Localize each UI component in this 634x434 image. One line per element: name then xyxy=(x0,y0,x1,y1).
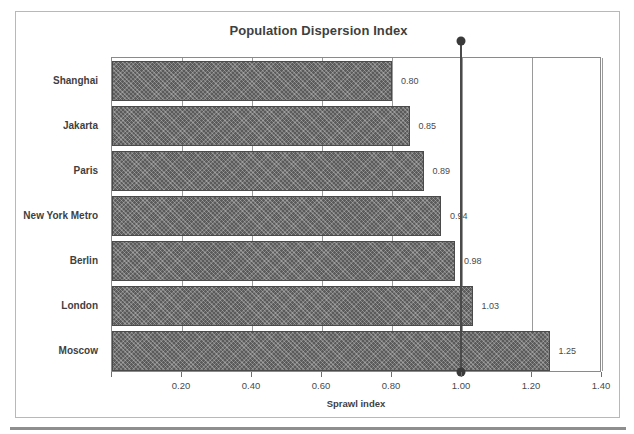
x-axis-tick xyxy=(601,372,602,377)
bar-value-label: 0.94 xyxy=(450,211,468,221)
category-label: Jakarta xyxy=(63,119,98,130)
bar-row: 0.80 xyxy=(112,61,600,101)
bar[interactable] xyxy=(112,61,392,101)
category-label: Moscow xyxy=(59,344,98,355)
x-axis-tick-label: 0.80 xyxy=(382,380,401,391)
footer-divider xyxy=(10,427,626,430)
bar-value-label: 0.80 xyxy=(401,76,419,86)
x-axis-tick xyxy=(461,372,462,377)
x-axis-tick xyxy=(321,372,322,377)
x-axis-tick-label: 1.00 xyxy=(452,380,471,391)
chart-title: Population Dispersion Index xyxy=(16,23,621,38)
chart-frame: Population Dispersion Index ShanghaiJaka… xyxy=(15,11,620,418)
bar[interactable] xyxy=(112,331,550,371)
reference-marker-top-icon xyxy=(457,37,466,46)
x-axis-tick xyxy=(181,372,182,377)
bar-row: 0.94 xyxy=(112,196,600,236)
x-axis-tick-label: 0.60 xyxy=(312,380,331,391)
reference-line xyxy=(460,40,462,372)
bar-row: 0.85 xyxy=(112,106,600,146)
x-axis-tick xyxy=(111,372,112,377)
category-label: Berlin xyxy=(70,254,98,265)
bar-value-label: 0.98 xyxy=(464,256,482,266)
x-axis-tick-label: 0.40 xyxy=(242,380,261,391)
x-axis-tick-label: 1.40 xyxy=(592,380,611,391)
x-axis-tick-label: 0.20 xyxy=(172,380,191,391)
bar-row: 0.89 xyxy=(112,151,600,191)
bar-row: 0.98 xyxy=(112,241,600,281)
category-label: Shanghai xyxy=(53,74,98,85)
bar[interactable] xyxy=(112,151,424,191)
x-axis-tick-label: 1.20 xyxy=(522,380,541,391)
bar[interactable] xyxy=(112,106,410,146)
x-axis-tick xyxy=(251,372,252,377)
bar-value-label: 0.89 xyxy=(433,166,451,176)
bar[interactable] xyxy=(112,196,441,236)
bar[interactable] xyxy=(112,286,473,326)
bar-series: 0.800.850.890.940.981.031.25 xyxy=(112,58,600,371)
bar-value-label: 0.85 xyxy=(419,121,437,131)
x-axis-tick xyxy=(531,372,532,377)
category-label: Paris xyxy=(74,164,98,175)
category-axis-labels: ShanghaiJakartaParisNew York MetroBerlin… xyxy=(16,57,106,372)
category-label: London xyxy=(61,299,98,310)
bar-value-label: 1.03 xyxy=(482,301,500,311)
bar-row: 1.25 xyxy=(112,331,600,371)
x-axis-title: Sprawl index xyxy=(111,398,601,409)
plot-area: 0.800.850.890.940.981.031.25 xyxy=(111,57,601,372)
category-label: New York Metro xyxy=(23,209,98,220)
x-axis-tick xyxy=(391,372,392,377)
bar-value-label: 1.25 xyxy=(559,346,577,356)
bar-row: 1.03 xyxy=(112,286,600,326)
bar[interactable] xyxy=(112,241,455,281)
gridline xyxy=(602,58,603,371)
